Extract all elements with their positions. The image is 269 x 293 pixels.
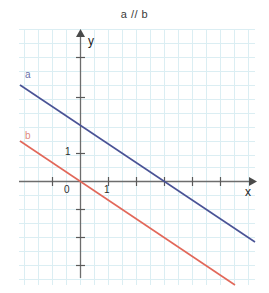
line-a-label: a [25, 70, 31, 80]
figure-canvas: a // b [0, 0, 269, 293]
line-b-label: b [25, 131, 31, 141]
y-axis-arrow [76, 29, 85, 37]
x-tick-label-1: 1 [104, 185, 110, 195]
y-axis-label: y [88, 35, 94, 47]
y-tick-label-1: 1 [65, 147, 71, 157]
x-axis-label: x [245, 186, 251, 198]
axes [19, 36, 249, 278]
origin-tick-label: 0 [64, 185, 70, 195]
graph-svg [0, 0, 269, 293]
line-a [20, 85, 255, 242]
grid-lines [19, 29, 255, 285]
